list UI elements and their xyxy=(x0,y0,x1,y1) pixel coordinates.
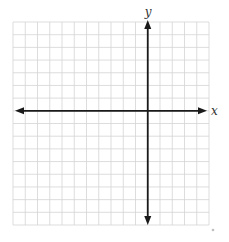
grid-lines xyxy=(13,22,209,225)
x-axis-right-arrow-icon xyxy=(198,107,207,114)
y-axis-down-arrow-icon xyxy=(144,216,151,225)
y-axis-label: y xyxy=(144,5,152,19)
x-axis-label: x xyxy=(211,104,218,118)
coordinate-plane: x y xyxy=(0,0,229,242)
coordinate-plane-svg: x y xyxy=(0,0,229,242)
x-axis-left-arrow-icon xyxy=(15,107,24,114)
stray-mark xyxy=(212,229,215,232)
y-axis-up-arrow-icon xyxy=(144,20,151,29)
